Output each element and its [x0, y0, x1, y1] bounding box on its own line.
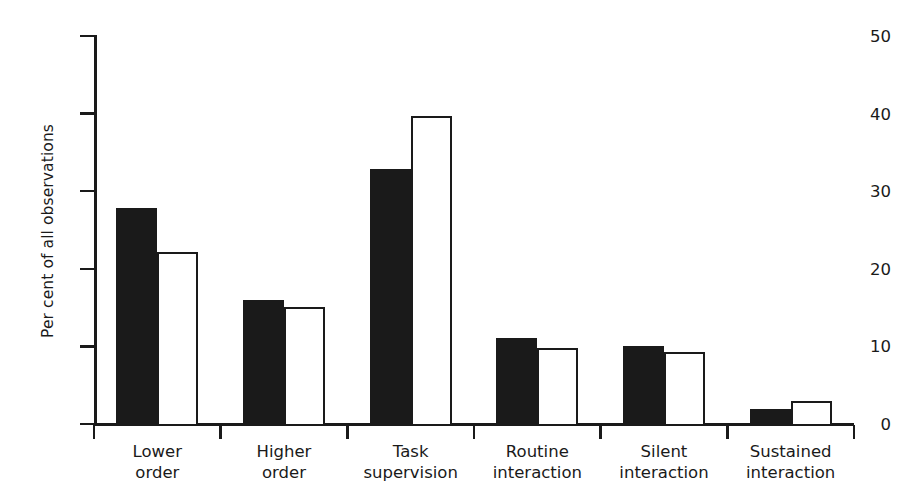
y-tick-mark: [80, 190, 94, 193]
x-axis-label-line1: Silent: [601, 441, 728, 462]
bar-filled-3: [496, 338, 537, 424]
bar-outlined-0: [157, 252, 198, 424]
bar-filled-2: [370, 169, 411, 424]
x-tick-mark: [93, 425, 96, 439]
x-axis-label-line2: interaction: [601, 462, 728, 483]
x-axis-label-line1: Higher: [221, 441, 348, 462]
x-axis-label-line2: order: [221, 462, 348, 483]
x-axis-label-line1: Sustained: [727, 441, 854, 462]
bar-filled-4: [623, 346, 664, 424]
bar-chart: Per cent of all observations 01020304050…: [0, 0, 899, 503]
x-axis-label-line1: Routine: [474, 441, 601, 462]
x-tick-mark: [473, 425, 476, 439]
y-tick-mark: [80, 268, 94, 271]
x-axis-label-0: Lowerorder: [94, 441, 221, 483]
x-tick-mark: [346, 425, 349, 439]
bar-outlined-1: [284, 307, 325, 424]
x-axis-label-line2: interaction: [474, 462, 601, 483]
y-axis-title: Per cent of all observations: [39, 81, 57, 381]
bar-filled-5: [750, 409, 791, 424]
plot-area: [94, 36, 854, 424]
x-axis-label-line2: supervision: [347, 462, 474, 483]
bar-outlined-5: [791, 401, 832, 424]
x-tick-mark: [219, 425, 222, 439]
x-axis-label-3: Routineinteraction: [474, 441, 601, 483]
bar-outlined-2: [411, 116, 452, 424]
x-axis-label-5: Sustainedinteraction: [727, 441, 854, 483]
x-tick-mark: [726, 425, 729, 439]
bar-outlined-4: [664, 352, 705, 424]
x-axis-label-line2: interaction: [727, 462, 854, 483]
y-tick-mark: [80, 345, 94, 348]
x-tick-mark: [599, 425, 602, 439]
bar-filled-1: [243, 300, 284, 424]
x-axis-label-line2: order: [94, 462, 221, 483]
bar-filled-0: [116, 208, 157, 424]
x-axis-label-line1: Lower: [94, 441, 221, 462]
x-axis-label-4: Silentinteraction: [601, 441, 728, 483]
x-tick-mark: [853, 425, 856, 439]
y-tick-mark: [80, 35, 94, 38]
x-axis-label-2: Tasksupervision: [347, 441, 474, 483]
x-axis-label-1: Higherorder: [221, 441, 348, 483]
y-tick-mark: [80, 112, 94, 115]
bar-outlined-3: [537, 348, 578, 424]
x-axis-label-line1: Task: [347, 441, 474, 462]
